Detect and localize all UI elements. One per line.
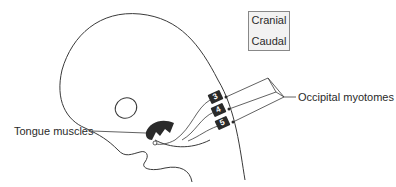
tongue-muscle-shape — [146, 121, 174, 140]
caudal-label: Caudal — [249, 36, 289, 47]
occipital-bracket — [226, 78, 284, 97]
orientation-legend: Cranial Caudal — [248, 11, 290, 51]
tongue-muscles-label: Tongue muscles — [14, 126, 94, 137]
eye-outline — [111, 94, 140, 122]
cranial-label: Cranial — [249, 15, 289, 26]
occipital-myotomes-label: Occipital myotomes — [298, 92, 394, 103]
